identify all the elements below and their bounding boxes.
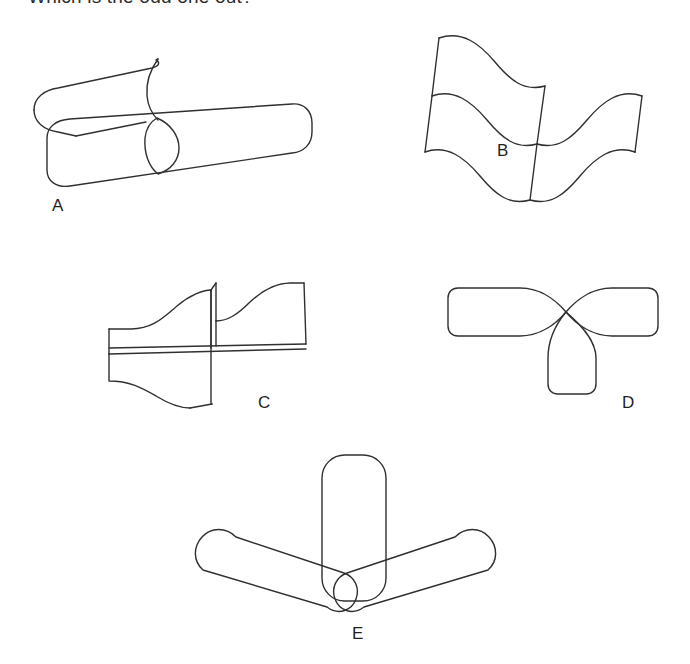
figure-stage (0, 0, 690, 664)
figure-b (425, 36, 642, 202)
figure-a (34, 59, 312, 186)
option-label-e[interactable]: E (352, 624, 363, 644)
figure-e (195, 455, 495, 611)
option-label-b[interactable]: B (497, 141, 508, 161)
figure-c (109, 283, 306, 408)
option-label-d[interactable]: D (622, 393, 634, 413)
option-label-a[interactable]: A (52, 196, 63, 216)
option-label-c[interactable]: C (258, 393, 270, 413)
figure-d (448, 288, 658, 394)
